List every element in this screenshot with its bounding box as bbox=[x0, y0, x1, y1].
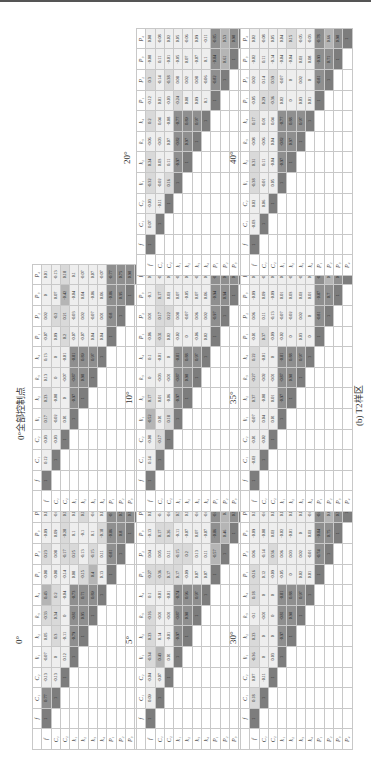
matrix-row: f10.180.07-0.360.23-0.10.18-0.160.06-0.0… bbox=[250, 502, 259, 749]
correlation-cell: 0.1 bbox=[202, 49, 211, 70]
empty-cell bbox=[229, 605, 238, 626]
correlation-cell: -0.09 bbox=[268, 326, 277, 347]
correlation-cell: 0 bbox=[51, 367, 60, 388]
empty-cell bbox=[287, 450, 296, 471]
correlation-cell: 0.13 bbox=[42, 367, 51, 388]
row-header: P₃ bbox=[229, 729, 238, 750]
correlation-cell: -0.03 bbox=[164, 90, 173, 111]
correlation-cell: 0.22 bbox=[164, 306, 173, 327]
empty-cell bbox=[98, 626, 107, 647]
correlation-cell: -0.07 bbox=[79, 326, 88, 347]
empty-cell bbox=[211, 152, 220, 173]
correlation-cell: 0.95 bbox=[116, 285, 125, 306]
correlation-cell: 0.03 bbox=[296, 326, 305, 347]
empty-cell bbox=[98, 470, 107, 491]
empty-cell bbox=[88, 708, 97, 729]
diagonal-cell: 1 bbox=[51, 688, 60, 709]
correlation-cell: -0.93 bbox=[315, 49, 324, 70]
empty-cell bbox=[343, 214, 352, 235]
empty-cell bbox=[287, 234, 296, 255]
correlation-cell: 0.95 bbox=[79, 605, 88, 626]
correlation-cell: 0.98 bbox=[125, 264, 134, 285]
empty-cell bbox=[229, 214, 238, 235]
empty-cell bbox=[183, 470, 192, 491]
diagonal-cell: 1 bbox=[79, 388, 88, 409]
correlation-cell: 0.08 bbox=[174, 70, 183, 91]
column-header: k₁ bbox=[33, 409, 42, 430]
empty-cell bbox=[229, 429, 238, 450]
empty-cell bbox=[125, 347, 134, 368]
row-header: k₁ bbox=[174, 729, 183, 750]
matrix-row: k₂10.970.890.080.020.07-0.06 bbox=[183, 28, 192, 275]
correlation-cell: 0.07 bbox=[51, 285, 60, 306]
empty-cell bbox=[220, 564, 229, 585]
correlation-cell: -0.02 bbox=[259, 429, 268, 450]
empty-cell bbox=[343, 688, 352, 709]
correlation-cell: 0.04 bbox=[146, 544, 155, 565]
column-header: P₂ bbox=[137, 70, 146, 91]
correlation-cell: 0.11 bbox=[164, 152, 173, 173]
empty-cell bbox=[333, 564, 342, 585]
correlation-cell: 0.1 bbox=[70, 264, 79, 285]
empty-cell bbox=[343, 429, 352, 450]
correlation-cell: 0.07 bbox=[202, 564, 211, 585]
correlation-cell: -0.97 bbox=[174, 152, 183, 173]
empty-cell bbox=[192, 429, 201, 450]
correlation-cell: 0.05 bbox=[155, 544, 164, 565]
matrix-row: C₁10.06-0.010.11-0.060.010.290.140.11-0.… bbox=[259, 28, 268, 275]
column-header: C₁ bbox=[137, 450, 146, 471]
correlation-cell: 0 bbox=[259, 647, 268, 668]
correlation-cell: 0.02 bbox=[296, 306, 305, 327]
correlation-cell: 0.07 bbox=[250, 667, 259, 688]
correlation-cell: 0.61 bbox=[220, 49, 229, 70]
column-header: k₂ bbox=[137, 626, 146, 647]
row-header: k₂ bbox=[287, 729, 296, 750]
correlation-cell: 0.17 bbox=[155, 306, 164, 327]
empty-cell bbox=[125, 585, 134, 606]
column-header: P₃ bbox=[241, 523, 250, 544]
empty-cell bbox=[202, 470, 211, 491]
empty-cell bbox=[98, 605, 107, 626]
matrix-row: C₂10.160.110.07-0.08-0.03-0.38-0.010.02 bbox=[164, 28, 173, 275]
correlation-cell: -0.14 bbox=[268, 49, 277, 70]
diagonal-cell: 1 bbox=[183, 152, 192, 173]
row-header: P₁ bbox=[211, 491, 220, 512]
row-header: k₄ bbox=[306, 255, 315, 276]
column-header: k₂ bbox=[241, 626, 250, 647]
empty-cell bbox=[211, 585, 220, 606]
diagonal-cell: 1 bbox=[250, 470, 259, 491]
empty-cell bbox=[315, 708, 324, 729]
correlation-cell: 0.77 bbox=[42, 688, 51, 709]
correlation-cell: -0.81 bbox=[278, 585, 287, 606]
matrix-row: k₄10.01-0.010.02-0.01 bbox=[306, 502, 315, 749]
empty-cell bbox=[306, 173, 315, 194]
row-header: P₃ bbox=[333, 255, 342, 276]
empty-cell bbox=[324, 647, 333, 668]
column-header: P₁ bbox=[33, 326, 42, 347]
empty-cell bbox=[343, 367, 352, 388]
correlation-cell: 0.06 bbox=[250, 306, 259, 327]
empty-cell bbox=[333, 306, 342, 327]
matrix-row: P₃10.98 bbox=[125, 264, 134, 511]
matrix-row: P₁1-0.81-0.86-0.76 bbox=[107, 502, 116, 749]
column-header: P₄ bbox=[137, 28, 146, 49]
correlation-cell: 0.08 bbox=[51, 544, 60, 565]
correlation-cell: 0.09 bbox=[51, 326, 60, 347]
empty-cell bbox=[333, 173, 342, 194]
row-header: k₃ bbox=[192, 255, 201, 276]
correlation-cell: -0.13 bbox=[51, 667, 60, 688]
empty-cell bbox=[333, 70, 342, 91]
correlation-cell: -0.1 bbox=[146, 285, 155, 306]
empty-cell bbox=[183, 214, 192, 235]
row-header: P₂ bbox=[116, 729, 125, 750]
empty-cell bbox=[79, 708, 88, 729]
matrix-row: P₁1-0.74-0.84-0.81 bbox=[315, 502, 324, 749]
correlation-cell: 0 bbox=[287, 564, 296, 585]
diagonal-cell: 1 bbox=[192, 367, 201, 388]
correlation-cell: -0.04 bbox=[60, 585, 69, 606]
correlation-cell: 0.3 bbox=[146, 70, 155, 91]
correlation-cell: 0.66 bbox=[324, 28, 333, 49]
correlation-cell: 0.2 bbox=[146, 111, 155, 132]
correlation-cell: 0.8 bbox=[116, 523, 125, 544]
correlation-cell: -0.07 bbox=[42, 647, 51, 668]
